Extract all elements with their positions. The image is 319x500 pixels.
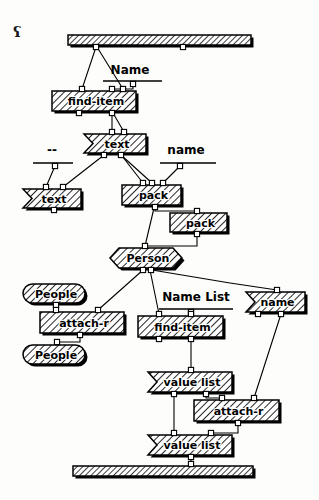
port-p-topbar-b[interactable]: [180, 44, 185, 49]
port-p-ar1-in-b[interactable]: [95, 307, 100, 312]
port-p-name-rule[interactable]: [177, 163, 182, 168]
port-p-person-o-a[interactable]: [140, 267, 145, 272]
node-people-2[interactable]: People: [23, 345, 88, 367]
port-p-ar2-in-b[interactable]: [251, 395, 256, 400]
port-p-pack1-out[interactable]: [152, 204, 157, 209]
port-p-namerule[interactable]: [130, 81, 135, 86]
free-label-label-name: Name: [111, 63, 150, 77]
port-p-txt1-out-a[interactable]: [101, 152, 106, 157]
port-p-fi1-out-b[interactable]: [109, 110, 114, 115]
port-p-vl1-out-b[interactable]: [203, 391, 208, 396]
wire: [98, 270, 143, 310]
diagram-canvas[interactable]: Name--nameName List find-itemtexttextpac…: [0, 0, 319, 500]
node-person[interactable]: Person: [110, 248, 185, 271]
node-label: value list: [164, 439, 221, 452]
node-find-item-2[interactable]: find-item: [138, 316, 226, 340]
input-terminal-bar[interactable]: [68, 35, 251, 45]
node-label: People: [35, 288, 77, 301]
port-p-vl2-in-b[interactable]: [208, 430, 213, 435]
port-p-dash-rule[interactable]: [52, 163, 57, 168]
port-p-ar1-in-a[interactable]: [53, 307, 58, 312]
port-p-nm-out-b[interactable]: [278, 311, 283, 316]
node-label: pack: [186, 217, 216, 230]
port-p-pack1-in-a[interactable]: [140, 180, 145, 185]
port-p-fi1-in-a[interactable]: [79, 86, 84, 91]
port-p-vl1-in[interactable]: [188, 367, 193, 372]
wire: [63, 155, 104, 187]
port-p-person-in[interactable]: [142, 243, 147, 248]
port-p-ar2-out[interactable]: [235, 420, 240, 425]
wire: [254, 314, 281, 398]
node-label: People: [35, 349, 77, 362]
wire: [145, 208, 154, 246]
node-attach-r-1[interactable]: attach-r: [40, 312, 127, 336]
node-label: Person: [127, 252, 170, 265]
port-p-txt2-in-b[interactable]: [60, 184, 65, 189]
wire: [150, 270, 159, 314]
node-label: text: [41, 193, 66, 206]
corner-page-mark: ʕ: [13, 23, 21, 41]
port-p-fi2-out-b[interactable]: [188, 336, 193, 341]
node-label: pack: [139, 189, 169, 202]
wire: [121, 155, 152, 183]
port-p-pack1-in-c[interactable]: [160, 180, 165, 185]
wire: [145, 234, 197, 246]
port-p-people2-in[interactable]: [54, 339, 59, 344]
free-label-label-name-list: Name List: [162, 290, 230, 304]
port-p-topbar-a[interactable]: [93, 44, 98, 49]
node-find-item-1[interactable]: find-item: [52, 91, 139, 114]
port-p-fi1-in-b[interactable]: [109, 86, 114, 91]
dataflow-graph[interactable]: Name--nameName List find-itemtexttextpac…: [0, 0, 319, 500]
port-p-vl2-in-a[interactable]: [171, 430, 176, 435]
port-p-fi2-out-a[interactable]: [156, 336, 161, 341]
port-p-fi1-out-a[interactable]: [76, 110, 81, 115]
port-p-pack2-in[interactable]: [194, 208, 199, 213]
port-p-nm-out-a[interactable]: [255, 311, 260, 316]
port-p-pack1-in-b[interactable]: [149, 180, 154, 185]
port-p-txt2-in-a[interactable]: [43, 184, 48, 189]
port-p-txt2-out[interactable]: [51, 207, 56, 212]
node-label: find-item: [154, 321, 210, 334]
port-p-ar1-out[interactable]: [77, 332, 82, 337]
node-text-1[interactable]: text: [84, 134, 149, 156]
node-label: text: [104, 138, 129, 151]
port-p-txt1-in-b[interactable]: [121, 129, 126, 134]
node-label: value list: [164, 376, 221, 389]
node-label: name: [260, 296, 294, 309]
port-p-fi2-in-b[interactable]: [188, 311, 193, 316]
port-p-txt1-out-b[interactable]: [118, 152, 123, 157]
port-p-person-o-b[interactable]: [148, 267, 153, 272]
port-p-vl1-out-a[interactable]: [171, 391, 176, 396]
wire: [122, 156, 143, 183]
port-p-botbar[interactable]: [188, 461, 193, 466]
node-label: attach-r: [59, 317, 109, 330]
wire: [152, 270, 277, 290]
node-value-list-1[interactable]: value list: [148, 372, 235, 395]
output-terminal-bar[interactable]: [73, 466, 253, 476]
port-p-nm-in[interactable]: [274, 287, 279, 292]
wire: [211, 423, 238, 433]
node-label: attach-r: [214, 405, 264, 418]
wire: [82, 47, 96, 89]
port-p-fi2-in-a[interactable]: [156, 311, 161, 316]
port-p-fi1-in-c[interactable]: [120, 86, 125, 91]
node-label: find-item: [68, 95, 124, 108]
port-p-people1-out[interactable]: [53, 302, 58, 307]
wire: [155, 207, 197, 211]
port-p-ar2-in-a[interactable]: [219, 395, 224, 400]
port-p-pack2-out[interactable]: [194, 231, 199, 236]
free-label-label-name-low: name: [167, 143, 204, 157]
port-p-txt1-in-a[interactable]: [109, 129, 114, 134]
node-layer[interactable]: find-itemtexttextpackpackPersonPeopleatt…: [23, 91, 308, 458]
free-label-label-dashdash: --: [47, 143, 57, 157]
wire: [57, 335, 80, 342]
port-p-vl2-out[interactable]: [188, 454, 193, 459]
